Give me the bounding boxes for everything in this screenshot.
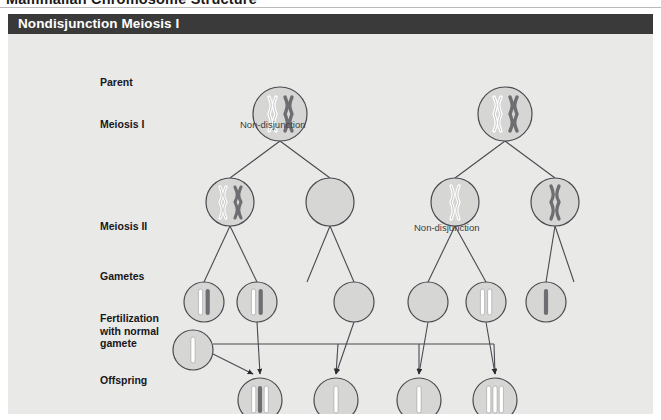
chromatid-light bbox=[334, 386, 338, 413]
chromatid-light bbox=[487, 386, 491, 413]
figure-body: Parent Meiosis I Meiosis II Gametes Fert… bbox=[8, 34, 653, 414]
cell-gamete-4 bbox=[408, 282, 448, 322]
chapter-heading: Mammalian Chromosome Structure bbox=[6, 0, 406, 5]
figure-panel: Nondisjunction Meiosis I bbox=[8, 14, 653, 414]
connector-lines bbox=[204, 141, 574, 282]
cell-gamete-6 bbox=[526, 282, 566, 322]
cell-meiosis1-4 bbox=[531, 178, 579, 226]
chromatid-light bbox=[480, 289, 484, 315]
cell-gamete-5 bbox=[466, 282, 506, 322]
chromatid-light bbox=[493, 386, 497, 413]
gamete-to-offspring-arrows bbox=[257, 322, 495, 374]
chromatid-light bbox=[488, 289, 492, 315]
chromatid-dark bbox=[206, 289, 210, 315]
cell-gamete-2 bbox=[237, 282, 277, 322]
chromatid-light bbox=[499, 386, 503, 413]
figure-page: Mammalian Chromosome Structure Nondisjun… bbox=[0, 0, 661, 420]
cell-meiosis1-1 bbox=[206, 178, 254, 226]
heading-rule bbox=[0, 7, 661, 8]
annotation-non-disjunction-meiosis-ii: Non-disjunction bbox=[414, 222, 479, 233]
annotation-non-disjunction-meiosis-i: Non-disjunction bbox=[240, 119, 305, 130]
stage-label-fertilization: Fertilization with normal gamete bbox=[100, 312, 159, 350]
cell-offspring-monosomy-1 bbox=[314, 378, 358, 414]
chromatid-light bbox=[264, 386, 268, 413]
stage-label-offspring: Offspring bbox=[100, 374, 147, 387]
chromatid-dark bbox=[259, 289, 263, 315]
fertilization-lines bbox=[213, 344, 495, 374]
figure-title-bar: Nondisjunction Meiosis I bbox=[8, 14, 653, 34]
chromatid-dark bbox=[544, 289, 548, 315]
stage-label-meiosis-ii: Meiosis II bbox=[100, 220, 147, 233]
stage-label-gametes: Gametes bbox=[100, 270, 144, 283]
cell-gamete-1 bbox=[184, 282, 224, 322]
chromatid-dark bbox=[258, 386, 262, 413]
cell-offspring-trisomy-2 bbox=[473, 378, 517, 414]
chromatid-light bbox=[251, 289, 255, 315]
cell-gamete-3 bbox=[334, 282, 374, 322]
chromatid-light bbox=[252, 386, 256, 413]
cell-normal-gamete bbox=[173, 330, 213, 370]
stage-label-meiosis-i: Meiosis I bbox=[100, 118, 144, 131]
chromatid-light bbox=[417, 386, 421, 413]
chromatid-light bbox=[191, 337, 195, 363]
figure-title: Nondisjunction Meiosis I bbox=[18, 16, 179, 31]
stage-label-parent: Parent bbox=[100, 76, 133, 89]
cell-meiosis1-3 bbox=[431, 178, 479, 226]
chromatid-light bbox=[198, 289, 202, 315]
cell-parent-left bbox=[253, 87, 307, 141]
cell-meiosis1-2 bbox=[306, 178, 354, 226]
cell-offspring-monosomy-2 bbox=[397, 378, 441, 414]
cell-offspring-trisomy-1 bbox=[238, 378, 282, 414]
cell-parent-right bbox=[478, 87, 532, 141]
